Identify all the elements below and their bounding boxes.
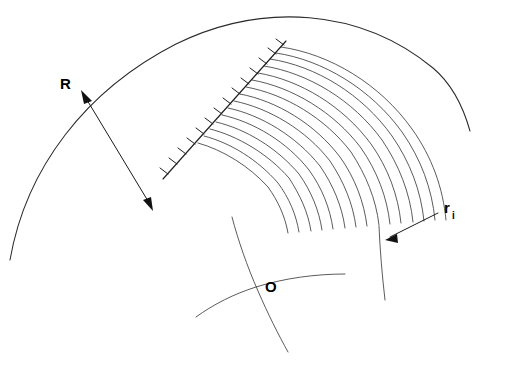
ri-arrow-line: [390, 213, 438, 237]
hatch-tick: [232, 88, 240, 94]
hatch-tick: [223, 98, 231, 104]
hatch-tick: [241, 78, 249, 84]
inner-boundary-curve-group: [379, 226, 385, 300]
hatched-boundary-line-group: [160, 39, 286, 179]
outer-radius-arc: [10, 17, 470, 260]
arc-fan-group: [198, 47, 446, 233]
hatch-tick: [268, 48, 276, 54]
hatch-tick: [250, 68, 258, 74]
hatch-ticks-group: [160, 39, 284, 174]
ri-arrowhead: [385, 234, 398, 243]
radius-arrowhead-bottom: [143, 197, 153, 211]
fan-arc-15: [198, 143, 288, 233]
label-outer-radius: R: [60, 75, 71, 92]
fan-arc-9: [234, 101, 356, 227]
label-origin: O: [265, 278, 277, 295]
fan-arc-10: [228, 108, 345, 228]
hatch-tick: [178, 148, 186, 154]
fan-arc-7: [246, 87, 379, 225]
hatch-tick: [187, 138, 195, 144]
fan-arc-2: [276, 53, 435, 220]
figure-root: R r i O: [0, 0, 508, 366]
fan-arc-12: [216, 122, 322, 230]
hatch-tick: [259, 58, 267, 64]
hatch-tick: [160, 168, 168, 174]
label-inner-radius: r: [444, 199, 450, 216]
diagram-canvas: R r i O: [0, 0, 508, 366]
label-inner-radius-subscript: i: [452, 210, 455, 221]
fan-arc-13: [210, 129, 311, 231]
outer-arc-group: [10, 17, 470, 260]
radius-arrow-group: [81, 90, 153, 211]
radius-arrowhead-top: [81, 90, 92, 104]
fan-arc-4: [264, 66, 413, 222]
hatch-tick: [276, 39, 284, 45]
inner-boundary-curve: [379, 226, 385, 300]
hatch-tick: [205, 118, 213, 124]
radius-arrow-line: [84, 95, 151, 206]
hatch-tick: [196, 128, 204, 134]
hatch-tick: [169, 158, 177, 164]
fan-arc-6: [252, 80, 390, 224]
origin-curve-left: [232, 217, 288, 352]
fan-arc-5: [258, 73, 401, 223]
hatch-tick: [214, 108, 222, 114]
ri-arrow-group: [385, 213, 438, 243]
fan-arc-1: [281, 47, 446, 220]
